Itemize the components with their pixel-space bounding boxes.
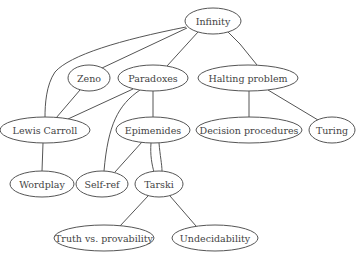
edge-epimenides-to-selfref [115, 142, 142, 172]
node-label: Self-ref [84, 179, 121, 190]
node-label: Turing [316, 125, 348, 136]
edge-epimenides-to-tarski [159, 143, 162, 171]
node-halting: Halting problem [198, 65, 298, 91]
node-label: Halting problem [208, 73, 287, 84]
node-turing: Turing [309, 117, 355, 143]
node-label: Paradoxes [128, 73, 178, 84]
edge-zeno-to-carroll [56, 90, 80, 118]
edge-infinity-to-paradoxes [167, 32, 198, 66]
node-epimenides: Epimenides [116, 117, 190, 143]
node-truth: Truth vs. provability [54, 225, 154, 251]
node-label: Zeno [77, 73, 101, 84]
node-decision: Decision procedures [196, 117, 302, 143]
node-carroll: Lewis Carroll [0, 117, 90, 143]
node-label: Truth vs. provability [55, 233, 154, 244]
edge-infinity-to-halting [228, 32, 257, 65]
node-infinity: Infinity [185, 8, 241, 34]
concept-graph: InfinityZenoParadoxesHalting problemLewi… [0, 0, 362, 260]
node-label: Tarski [144, 179, 173, 190]
edge-tarski-to-truth [120, 196, 148, 226]
node-label: Wordplay [19, 179, 65, 190]
node-label: Undecidability [180, 233, 251, 244]
edge-carroll-to-wordplay [42, 143, 43, 171]
nodes-layer: InfinityZenoParadoxesHalting problemLewi… [0, 8, 355, 251]
node-label: Epimenides [125, 125, 182, 136]
node-tarski: Tarski [135, 171, 183, 197]
edge-epimenides-to-tarski [151, 143, 154, 172]
edge-tarski-to-undecidability [170, 196, 196, 226]
node-undecidability: Undecidability [172, 225, 258, 251]
edge-paradoxes-to-carroll [68, 89, 133, 119]
node-wordplay: Wordplay [10, 171, 74, 197]
node-label: Lewis Carroll [13, 125, 78, 136]
node-label: Decision procedures [200, 125, 299, 136]
node-paradoxes: Paradoxes [118, 65, 188, 91]
edge-halting-to-turing [268, 90, 318, 120]
node-selfref: Self-ref [76, 171, 128, 197]
edge-infinity-to-zeno [102, 28, 187, 68]
node-label: Infinity [196, 16, 231, 27]
node-zeno: Zeno [68, 65, 110, 91]
